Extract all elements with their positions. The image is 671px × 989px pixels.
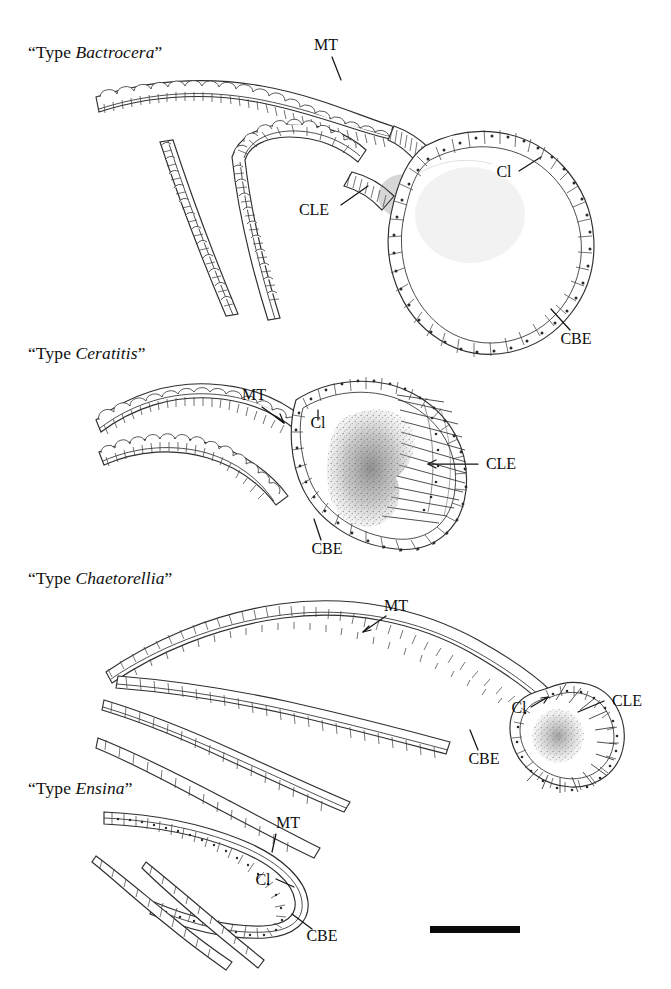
title-genus: Ensina xyxy=(74,778,124,798)
mt-limbs-chaetorellia xyxy=(96,676,450,858)
panel-title-ceratitis: “Type Ceratitis” xyxy=(28,343,146,363)
panel-title-chaetorellia: “Type Chaetorellia” xyxy=(28,568,172,588)
ensina-drawing: MT Cl CBE xyxy=(92,812,338,970)
label-mt-chaetorellia: MT xyxy=(384,597,408,614)
scale-bar xyxy=(430,926,520,933)
panel-bactrocera: “Type Bactrocera” xyxy=(28,36,594,357)
title-prefix: “Type xyxy=(28,568,75,588)
mt-tube-chaetorellia xyxy=(106,601,552,718)
panel-ensina: “Type Ensina” xyxy=(28,778,338,970)
ceratitis-drawing: MT Cl CLE CBE xyxy=(96,377,516,557)
panel-title-ensina: “Type Ensina” xyxy=(28,778,133,798)
label-cl-chaetorellia: Cl xyxy=(511,699,527,716)
title-genus: Bactrocera xyxy=(75,42,154,62)
label-mt-ensina: MT xyxy=(276,814,300,831)
secretion-chaetorellia xyxy=(532,709,584,763)
title-prefix: “Type xyxy=(28,778,75,798)
label-cle-ceratitis: CLE xyxy=(486,455,516,472)
label-cle-chaetorellia: CLE xyxy=(612,692,642,709)
leader-cbe-ceratitis xyxy=(314,519,321,540)
mt-limb-mid xyxy=(232,119,366,320)
label-cbe-ensina: CBE xyxy=(306,927,337,944)
leader-cbe-chaetorellia xyxy=(470,730,478,750)
chaetorellia-drawing: MT Cl CLE CBE xyxy=(96,597,642,858)
leader-mt-bactrocera xyxy=(332,57,341,80)
bladder-chaetorellia xyxy=(510,682,624,793)
label-mt-bactrocera: MT xyxy=(314,36,338,53)
title-suffix: ” xyxy=(155,42,163,62)
mt-limb-left xyxy=(160,140,238,316)
title-prefix: “Type xyxy=(28,343,75,363)
title-genus: Ceratitis xyxy=(75,343,137,363)
label-cl-ensina: Cl xyxy=(255,871,271,888)
mt-scalloped-cells-upper xyxy=(100,81,389,136)
label-cbe-chaetorellia: CBE xyxy=(468,750,499,767)
title-suffix: ” xyxy=(165,568,173,588)
bactrocera-drawing: MT CLE Cl CBE xyxy=(96,36,594,357)
label-cl-bactrocera: Cl xyxy=(496,163,512,180)
mt-tube-ceratitis xyxy=(96,384,306,434)
title-suffix: ” xyxy=(138,343,146,363)
label-cbe-ceratitis: CBE xyxy=(311,540,342,557)
mt-limb-ceratitis xyxy=(99,434,288,505)
mt-hatching-chaetorellia xyxy=(108,606,539,718)
scale-bar-rect xyxy=(430,926,520,933)
anatomical-figure: “Type Bactrocera” xyxy=(0,0,671,989)
label-cle-bactrocera: CLE xyxy=(299,201,329,218)
panel-title-bactrocera: “Type Bactrocera” xyxy=(28,42,162,62)
label-cbe-bactrocera: CBE xyxy=(560,330,591,347)
panel-ceratitis: “Type Ceratitis” xyxy=(28,343,516,557)
title-prefix: “Type xyxy=(28,42,75,62)
label-mt-ceratitis: MT xyxy=(242,386,266,403)
figure-root: “Type Bactrocera” xyxy=(0,0,671,989)
title-genus: Chaetorellia xyxy=(75,568,164,588)
title-suffix: ” xyxy=(125,778,133,798)
